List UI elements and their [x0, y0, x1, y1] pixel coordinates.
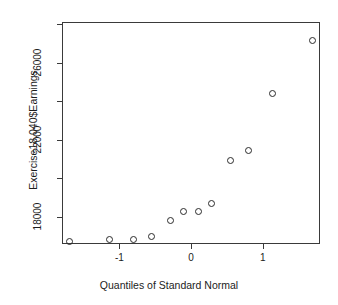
- x-tick-label: 0: [176, 252, 206, 263]
- x-tick-mark: [119, 244, 120, 249]
- x-tick-label: 1: [248, 252, 278, 263]
- y-tick-mark: [57, 101, 62, 102]
- x-axis-title: Quantiles of Standard Normal: [0, 279, 338, 291]
- y-axis-title: Exercise18.040$Earnings: [27, 40, 39, 220]
- y-tick-mark: [57, 217, 62, 218]
- y-tick-mark: [57, 140, 62, 141]
- y-tick-mark: [57, 178, 62, 179]
- plot-frame: [62, 22, 320, 244]
- y-tick-mark: [57, 24, 62, 25]
- x-tick-mark: [263, 244, 264, 249]
- x-tick-mark: [191, 244, 192, 249]
- x-tick-label: -1: [104, 252, 134, 263]
- qq-plot: -101 180002200026000 Quantiles of Standa…: [0, 0, 338, 305]
- y-tick-mark: [57, 63, 62, 64]
